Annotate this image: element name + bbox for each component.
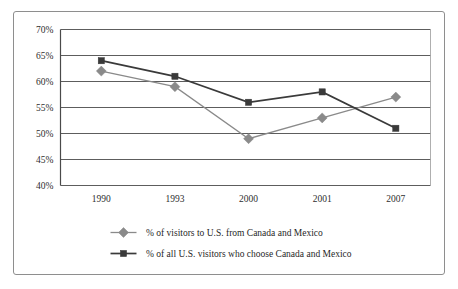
data-point-marker-square bbox=[98, 58, 104, 64]
data-point-marker-square bbox=[245, 99, 251, 105]
chart-legend: % of visitors to U.S. from Canada and Me… bbox=[111, 228, 352, 260]
legend-item-1[interactable]: % of visitors to U.S. from Canada and Me… bbox=[111, 228, 324, 239]
data-point-marker-square bbox=[319, 89, 325, 95]
series-line bbox=[101, 61, 396, 129]
data-point-marker-diamond bbox=[119, 228, 129, 238]
x-axis-tick-label: 2007 bbox=[386, 194, 405, 204]
plot-wrapper: 40%45%50%55%60%65%70%1990199320002001200… bbox=[0, 0, 458, 289]
data-point-marker-square bbox=[120, 250, 126, 256]
y-axis-tick-label: 60% bbox=[36, 77, 54, 87]
x-axis-tick-label: 1993 bbox=[165, 194, 184, 204]
legend-label: % of visitors to U.S. from Canada and Me… bbox=[146, 228, 323, 238]
x-axis-tick-label: 2000 bbox=[239, 194, 258, 204]
data-point-marker-diamond bbox=[317, 113, 327, 123]
series-2 bbox=[98, 58, 399, 132]
x-axis-labels: 19901993200020012007 bbox=[92, 194, 406, 204]
data-point-marker-diamond bbox=[244, 134, 254, 144]
chart-figure: 40%45%50%55%60%65%70%1990199320002001200… bbox=[0, 0, 458, 289]
x-axis-tick-label: 2001 bbox=[313, 194, 332, 204]
data-point-marker-diamond bbox=[391, 92, 401, 102]
data-point-marker-diamond bbox=[170, 82, 180, 92]
line-chart: 40%45%50%55%60%65%70%1990199320002001200… bbox=[0, 0, 458, 289]
grid-lines: 40%45%50%55%60%65%70% bbox=[36, 25, 430, 191]
y-axis-tick-label: 50% bbox=[36, 129, 54, 139]
legend-label: % of all U.S. visitors who choose Canada… bbox=[146, 249, 352, 259]
x-axis-tick-label: 1990 bbox=[92, 194, 111, 204]
y-axis-tick-label: 45% bbox=[36, 155, 54, 165]
y-axis-tick-label: 70% bbox=[36, 25, 54, 35]
y-axis-tick-label: 40% bbox=[36, 181, 54, 191]
data-point-marker-square bbox=[393, 125, 399, 131]
legend-item-2[interactable]: % of all U.S. visitors who choose Canada… bbox=[111, 249, 352, 259]
y-axis-tick-label: 55% bbox=[36, 103, 54, 113]
data-point-marker-diamond bbox=[96, 66, 106, 76]
data-point-marker-square bbox=[172, 73, 178, 79]
y-axis-tick-label: 65% bbox=[36, 51, 54, 61]
